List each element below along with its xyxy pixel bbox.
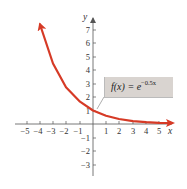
svg-text:4: 4 bbox=[144, 126, 149, 136]
svg-text:6: 6 bbox=[86, 38, 90, 48]
svg-text:4: 4 bbox=[86, 65, 91, 75]
formula-exponent: −0.5x bbox=[141, 79, 156, 86]
svg-text:5: 5 bbox=[157, 126, 161, 136]
svg-text:−1: −1 bbox=[81, 133, 90, 143]
y-tick-labels: 1 2 3 4 5 6 7 −1 −2 −3 bbox=[81, 25, 91, 170]
x-tick-labels: −5 −4 −3 −2 −1 1 2 3 4 5 bbox=[20, 126, 161, 136]
svg-text:−2: −2 bbox=[59, 126, 68, 136]
svg-text:2: 2 bbox=[117, 126, 121, 136]
svg-text:1: 1 bbox=[104, 126, 108, 136]
svg-text:−5: −5 bbox=[20, 126, 29, 136]
svg-text:3: 3 bbox=[131, 126, 135, 136]
svg-text:−3: −3 bbox=[46, 126, 55, 136]
svg-text:5: 5 bbox=[86, 52, 90, 62]
svg-text:−4: −4 bbox=[33, 126, 43, 136]
svg-text:3: 3 bbox=[86, 79, 90, 89]
svg-text:2: 2 bbox=[86, 92, 90, 102]
svg-text:7: 7 bbox=[86, 25, 90, 35]
svg-text:−3: −3 bbox=[81, 160, 90, 170]
y-ticks bbox=[93, 30, 96, 165]
y-axis-label: y bbox=[82, 12, 88, 22]
x-axis-label: x bbox=[167, 126, 173, 136]
annotation-leader-line bbox=[97, 97, 104, 109]
formula-base: f(x) = e bbox=[111, 81, 141, 92]
function-label: f(x) = e−0.5x bbox=[111, 80, 156, 92]
curve-exponential-decay bbox=[40, 25, 172, 124]
svg-text:−2: −2 bbox=[81, 146, 90, 156]
